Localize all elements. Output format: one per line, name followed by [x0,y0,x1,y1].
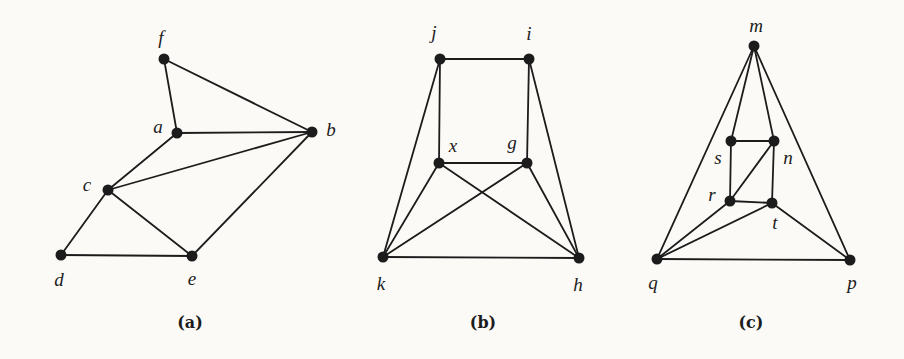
vertex-f-label: f [158,27,166,48]
edge-q-t [657,203,772,259]
vertex-n-label: n [783,147,793,168]
graph-a: fabcde(a) [54,27,336,332]
edge-m-s [731,46,754,141]
edge-d-e [61,255,192,256]
vertex-c-label: c [83,174,92,195]
edge-f-b [164,59,312,132]
caption-c: (c) [739,313,764,332]
edge-g-k [383,163,527,257]
vertex-i-dot [524,54,535,65]
vertex-h-label: h [573,274,583,295]
vertex-b-dot [307,127,318,138]
edge-k-h [383,257,579,258]
vertex-s-dot [726,136,737,147]
vertex-d-dot [56,250,67,261]
vertex-m-label: m [749,15,763,36]
edge-m-q [657,46,754,259]
vertex-p-dot [845,255,856,266]
edge-m-p [754,46,850,260]
vertex-r-dot [725,196,736,207]
vertex-f-dot [159,54,170,65]
textbook-figure-page: fabcde(a)jixgkh(b)msnrtqp(c) [0,0,904,359]
vertex-m-dot [749,41,760,52]
edge-s-r [730,141,731,201]
vertex-s-label: s [714,147,721,168]
vertex-e-label: e [188,268,196,289]
vertex-d-label: d [54,269,64,290]
vertex-n-dot [769,136,780,147]
vertex-i-label: i [526,23,531,44]
vertex-t-dot [767,198,778,209]
edge-c-b [108,132,312,190]
edge-c-e [108,190,192,256]
vertex-p-label: p [845,272,857,293]
vertex-e-dot [187,251,198,262]
edge-q-p [657,259,850,260]
graph-figure-svg: fabcde(a)jixgkh(b)msnrtqp(c) [0,0,904,359]
vertex-k-label: k [377,273,386,294]
caption-a: (a) [177,313,203,332]
edge-a-b [177,132,312,133]
vertex-x-dot [434,158,445,169]
vertex-b-label: b [326,119,336,140]
edge-q-r [657,201,730,259]
edge-r-t [730,201,772,203]
vertex-a-label: a [153,116,163,137]
vertex-t-label: t [772,212,778,233]
vertex-q-dot [652,254,663,265]
edge-c-d [61,190,108,255]
edge-a-c [108,133,177,190]
vertex-j-label: j [428,22,436,43]
vertex-x-label: x [448,135,458,156]
edge-g-h [527,163,579,258]
vertex-g-label: g [507,132,517,153]
vertex-r-label: r [708,184,716,205]
edge-m-n [754,46,774,141]
caption-b: (b) [470,313,496,332]
edge-n-t [772,141,774,203]
edge-j-k [383,59,440,257]
vertex-j-dot [435,54,446,65]
edge-i-g [527,59,529,163]
vertex-h-dot [574,253,585,264]
graph-b: jixgkh(b) [377,22,585,332]
vertex-c-dot [103,185,114,196]
edge-j-x [439,59,440,163]
vertex-q-label: q [648,272,658,293]
edge-n-r [730,141,774,201]
graph-c: msnrtqp(c) [648,15,857,332]
edge-e-b [192,132,312,256]
vertex-k-dot [378,252,389,263]
vertex-g-dot [522,158,533,169]
edge-f-a [164,59,177,133]
vertex-a-dot [172,128,183,139]
edge-x-k [383,163,439,257]
edge-t-p [772,203,850,260]
